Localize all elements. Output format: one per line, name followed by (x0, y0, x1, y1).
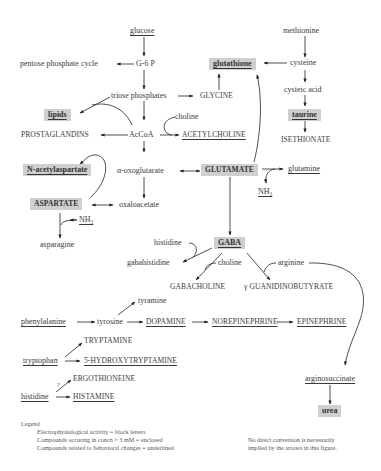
node-histidine-gaba: histidine (154, 238, 182, 248)
node-n-acetylaspartate: N-acetylaspartate (23, 164, 91, 176)
legend-line-enclosed: Compounds occuring in concn > 3 mM = enc… (21, 436, 174, 444)
node-g6p: G-6 P (136, 59, 155, 69)
node-histidine-histamine: histidine (21, 392, 49, 402)
node-oxaloacetate: oxaloacetate (119, 200, 159, 210)
legend: Legend Electrophysiological activity = b… (21, 420, 174, 452)
node-histamine: HISTAMINE (73, 392, 115, 402)
node-methionine: methionine (283, 26, 319, 36)
node-ergothioneine: ERGOTHIONEINE (73, 374, 135, 384)
node-gabacholine: GABACHOLINE (170, 282, 225, 292)
node-nh3-glutamine: NH₃ (258, 187, 272, 197)
uncertain-conversion-mark: ? (57, 380, 60, 390)
node-aspartate: ASPARTATE (30, 198, 82, 210)
node-dopamine: DOPAMINE (146, 317, 186, 327)
node-phenylalanine: phenylalanine (21, 317, 66, 327)
legend-line-block-letters: Electrophysiological activity = block le… (21, 428, 174, 436)
node-choline-gaba: choline (218, 258, 242, 268)
node-glutathione: glutathione (209, 58, 256, 70)
legend-note-line-1: No direct conversion is necessarily (248, 436, 337, 444)
node-cysteic-acid: cysteic acid (284, 85, 322, 95)
node-triose-phosphates: triose phosphates (111, 91, 166, 101)
legend-note: No direct conversion is necessarily impl… (248, 436, 337, 452)
node-lipids: lipids (44, 109, 71, 121)
node-tryptamine: TRYPTAMINE (84, 336, 132, 346)
node-arginine: arginine (278, 258, 304, 268)
node-asparagine: asparagine (40, 240, 74, 250)
node-5-hydroxytryptamine: 5-HYDROXYTRYPTAMINE (84, 356, 177, 366)
legend-note-line-2: implied by the arrows in this figure. (248, 444, 337, 452)
node-accoa: AcCoA (129, 130, 153, 140)
node-tryptophan: tryptophan (23, 356, 58, 366)
node-taurine: taurine (288, 109, 321, 121)
node-glutamine: glutamine (288, 164, 320, 174)
node-pentose-phosphate-cycle: pentose phosphate cycle (20, 59, 98, 69)
node-norepinephrine: NOREPINEPHRINE (212, 317, 278, 327)
node-acetylcholine: ACETYLCHOLINE (182, 130, 246, 140)
node-choline-acetylcholine: choline (175, 112, 199, 122)
node-tyrosine: tyrosine (97, 317, 123, 327)
node-alpha-oxoglutarate: α-oxoglutarate (117, 166, 164, 176)
arrows-layer (0, 0, 381, 471)
legend-title: Legend (21, 420, 174, 428)
node-glucose: glucose (130, 26, 154, 36)
node-tyramine: tyramine (138, 296, 166, 306)
node-epinephrine: EPINEPHRINE (297, 317, 346, 327)
node-glutamate: GLUTAMATE (201, 164, 258, 176)
node-isethionate: ISETHIONATE (281, 135, 330, 145)
node-prostaglandins: PROSTAGLANDINS (21, 130, 89, 140)
node-cysteine: cysteine (290, 58, 316, 68)
node-glycine: GLYCINE (200, 91, 233, 101)
node-arginosuccinate: arginosuccinate (305, 374, 355, 384)
node-guanidinobutyrate: γ GUANIDINOBUTYRATE (244, 282, 333, 292)
node-urea: urea (318, 405, 341, 417)
legend-line-underlined: Compounds related to behavioral changes … (21, 444, 174, 452)
node-nh3-asparagine: NH₃ (79, 215, 93, 225)
node-gabahistidine: gabahistidine (127, 258, 170, 268)
node-gaba: GABA (214, 237, 245, 249)
